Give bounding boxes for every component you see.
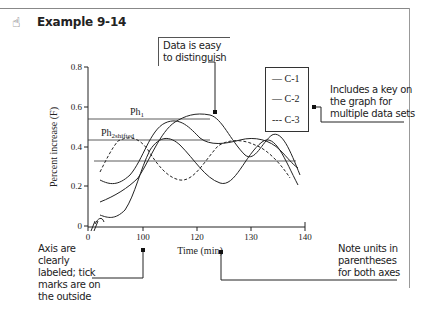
note-axis: Axis are clearly labeled; tick marks are… [38, 243, 100, 303]
note-key: Includes a key on the graph for multiple… [330, 84, 415, 120]
note-units: Note units in parentheses for both axes [338, 243, 400, 279]
